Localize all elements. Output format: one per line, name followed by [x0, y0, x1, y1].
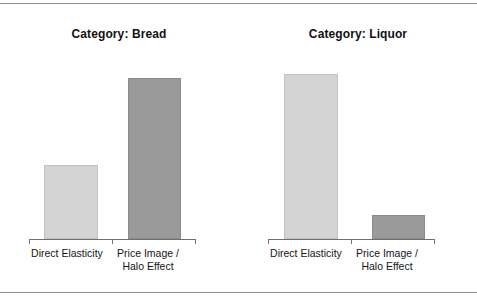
plot-area-bread: [29, 58, 196, 239]
x-axis-labels-bread: Direct Elasticity Price Image / Halo Eff…: [0, 247, 238, 287]
x-axis-tick-left-liquor: [268, 239, 269, 244]
x-axis-tick-right-liquor: [434, 239, 435, 244]
plot-area-liquor: [268, 58, 435, 239]
x-axis-labels-liquor: Direct Elasticity Price Image / Halo Eff…: [239, 247, 477, 287]
top-divider-rule: [0, 3, 477, 4]
bar-chart-figure: Category: Bread Direct Elasticity Price …: [0, 0, 477, 301]
x-label-bread-price-image-halo-effect: Price Image / Halo Effect: [96, 247, 200, 273]
x-label-liquor-price-image-halo-effect: Price Image / Halo Effect: [335, 247, 439, 273]
bar-bread-price-image-halo-effect: [128, 78, 181, 239]
x-axis-tick-left-bread: [29, 239, 30, 244]
panel-title-bread: Category: Bread: [0, 27, 238, 41]
bar-liquor-direct-elasticity: [284, 74, 338, 239]
bottom-divider-rule: [0, 292, 477, 293]
x-axis-tick-middle-bread: [112, 239, 113, 244]
x-axis-tick-right-bread: [195, 239, 196, 244]
panel-title-liquor: Category: Liquor: [239, 27, 477, 41]
bar-bread-direct-elasticity: [44, 165, 98, 239]
panel-liquor: Category: Liquor Direct Elasticity Price…: [239, 14, 477, 286]
bar-liquor-price-image-halo-effect: [372, 215, 425, 239]
panel-bread: Category: Bread Direct Elasticity Price …: [0, 14, 238, 286]
x-axis-tick-middle-liquor: [351, 239, 352, 244]
